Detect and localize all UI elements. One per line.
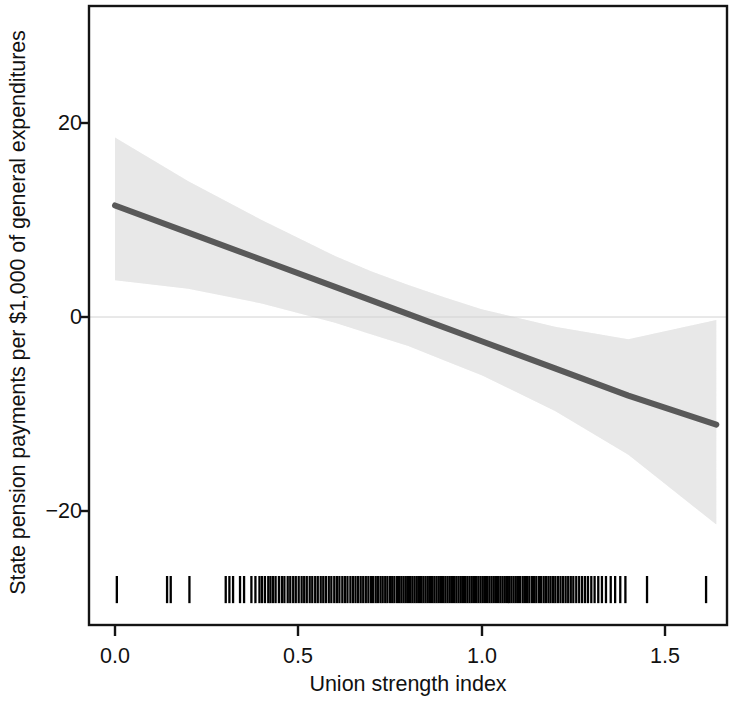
rug-plot (117, 576, 706, 603)
fit-line-group (115, 205, 716, 424)
confidence-interval-band (115, 138, 716, 525)
fitted-regression-line (115, 205, 716, 424)
regression-plot-figure: State pension payments per $1,000 of gen… (0, 0, 733, 704)
confidence-band-group (115, 138, 716, 525)
plot-canvas (0, 0, 733, 704)
